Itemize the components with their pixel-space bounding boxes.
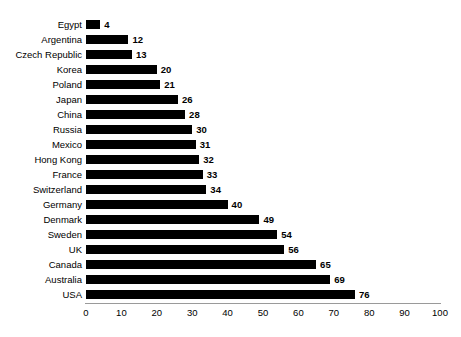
- bar-row: Argentina12: [86, 32, 440, 47]
- category-label: Japan: [56, 95, 82, 105]
- bar: [86, 65, 157, 74]
- category-label: Russia: [53, 125, 82, 135]
- category-label: UK: [69, 245, 82, 255]
- bar-row: USA76: [86, 287, 440, 302]
- bar: [86, 275, 330, 284]
- category-label: Korea: [57, 65, 82, 75]
- bar-row: Australia69: [86, 272, 440, 287]
- bar-row: Hong Kong32: [86, 152, 440, 167]
- bar-value-label: 26: [182, 95, 193, 105]
- x-tick-label: 30: [187, 308, 198, 318]
- x-axis-line: [85, 303, 441, 304]
- x-tick-label: 80: [364, 308, 375, 318]
- bar: [86, 20, 100, 29]
- bar-rows: Egypt4Argentina12Czech Republic13Korea20…: [86, 17, 440, 302]
- bar: [86, 125, 192, 134]
- x-axis-ticks: 0102030405060708090100: [86, 308, 440, 324]
- category-label: USA: [62, 290, 82, 300]
- bar-row: Germany40: [86, 197, 440, 212]
- bar-value-label: 30: [196, 125, 207, 135]
- bar-row: Czech Republic13: [86, 47, 440, 62]
- plot-area: Egypt4Argentina12Czech Republic13Korea20…: [86, 17, 440, 302]
- bar-value-label: 40: [232, 200, 243, 210]
- bar-row: Denmark49: [86, 212, 440, 227]
- x-tick-label: 90: [399, 308, 410, 318]
- bar-value-label: 69: [334, 275, 345, 285]
- bar-value-label: 54: [281, 230, 292, 240]
- bar-row: France33: [86, 167, 440, 182]
- category-label: Australia: [45, 275, 82, 285]
- bar: [86, 155, 199, 164]
- category-label: Poland: [52, 80, 82, 90]
- bar-row: Poland21: [86, 77, 440, 92]
- bar: [86, 140, 196, 149]
- bar: [86, 95, 178, 104]
- x-tick-label: 70: [329, 308, 340, 318]
- x-tick-label: 40: [222, 308, 233, 318]
- bar-value-label: 34: [210, 185, 221, 195]
- category-label: Switzerland: [33, 185, 82, 195]
- bar-value-label: 76: [359, 290, 370, 300]
- bar-chart: Egypt4Argentina12Czech Republic13Korea20…: [0, 0, 461, 337]
- bar-row: Korea20: [86, 62, 440, 77]
- x-tick-label: 100: [432, 308, 448, 318]
- bar-row: Egypt4: [86, 17, 440, 32]
- category-label: Argentina: [41, 35, 82, 45]
- bar-row: UK56: [86, 242, 440, 257]
- x-tick-label: 20: [152, 308, 163, 318]
- bar-value-label: 31: [200, 140, 211, 150]
- bar: [86, 260, 316, 269]
- bar-row: Russia30: [86, 122, 440, 137]
- bar-row: China28: [86, 107, 440, 122]
- x-tick-label: 60: [293, 308, 304, 318]
- category-label: Czech Republic: [15, 50, 82, 60]
- category-label: Mexico: [52, 140, 82, 150]
- category-label: China: [57, 110, 82, 120]
- bar-value-label: 49: [263, 215, 274, 225]
- bar: [86, 230, 277, 239]
- bar-value-label: 33: [207, 170, 218, 180]
- category-label: France: [52, 170, 82, 180]
- category-label: Canada: [49, 260, 82, 270]
- bar: [86, 245, 284, 254]
- bar: [86, 200, 228, 209]
- bar: [86, 185, 206, 194]
- bar-value-label: 65: [320, 260, 331, 270]
- bar: [86, 110, 185, 119]
- bar-value-label: 28: [189, 110, 200, 120]
- category-label: Hong Kong: [34, 155, 82, 165]
- bar-row: Japan26: [86, 92, 440, 107]
- bar-row: Canada65: [86, 257, 440, 272]
- bar-value-label: 32: [203, 155, 214, 165]
- x-tick-label: 50: [258, 308, 269, 318]
- bar-value-label: 21: [164, 80, 175, 90]
- bar-value-label: 4: [104, 20, 109, 30]
- bar-value-label: 56: [288, 245, 299, 255]
- x-tick-label: 10: [116, 308, 127, 318]
- category-label: Sweden: [48, 230, 82, 240]
- bar: [86, 50, 132, 59]
- bar: [86, 215, 259, 224]
- x-tick-label: 0: [83, 308, 88, 318]
- bar: [86, 80, 160, 89]
- bar-row: Switzerland34: [86, 182, 440, 197]
- category-label: Denmark: [43, 215, 82, 225]
- bar-value-label: 13: [136, 50, 147, 60]
- bar-value-label: 12: [132, 35, 143, 45]
- bar: [86, 290, 355, 299]
- category-label: Germany: [43, 200, 82, 210]
- bar: [86, 170, 203, 179]
- bar-value-label: 20: [161, 65, 172, 75]
- bar-row: Sweden54: [86, 227, 440, 242]
- bar: [86, 35, 128, 44]
- category-label: Egypt: [58, 20, 82, 30]
- bar-row: Mexico31: [86, 137, 440, 152]
